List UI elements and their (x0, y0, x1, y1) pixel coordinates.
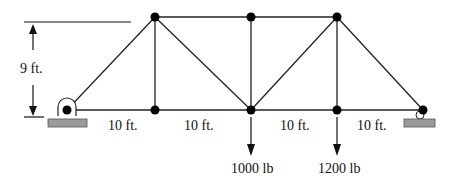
truss-members (67, 17, 423, 110)
truss-diagram: 9 ft. 10 ft. 10 ft. 10 ft. 10 ft. 1000 l… (0, 0, 455, 184)
joint (333, 106, 342, 115)
arrow-down-icon (247, 144, 255, 156)
joint (151, 13, 160, 22)
span-label: 10 ft. (280, 118, 310, 133)
roller-support-right (404, 111, 435, 127)
load-label: 1200 lb (318, 161, 360, 176)
load-label: 1000 lb (231, 161, 273, 176)
height-label: 9 ft. (20, 61, 43, 76)
span-label: 10 ft. (184, 118, 214, 133)
joint (151, 106, 160, 115)
joint (247, 13, 256, 22)
span-label: 10 ft. (357, 118, 387, 133)
member-right-diagonal (337, 17, 423, 110)
joint (63, 106, 72, 115)
joints (63, 13, 428, 115)
member-diagonal-2 (155, 17, 251, 110)
span-label: 10 ft. (108, 118, 138, 133)
arrow-down-icon (29, 106, 37, 116)
arrow-up-icon (29, 24, 37, 34)
member-left-diagonal (67, 17, 155, 110)
member-diagonal-3 (251, 17, 337, 110)
joint (419, 106, 428, 115)
joint (333, 13, 342, 22)
arrow-down-icon (333, 144, 341, 156)
joint (247, 106, 256, 115)
